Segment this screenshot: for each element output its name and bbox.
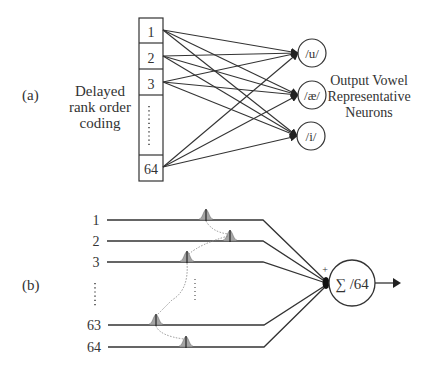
input-column (139, 18, 163, 181)
input-caption-line1: Delayed (75, 83, 125, 99)
line-label-2: 2 (93, 234, 100, 249)
panel-a-label: (a) (22, 87, 39, 104)
connections (163, 30, 298, 167)
neuron-u-label: /u/ (305, 46, 319, 61)
input-cell-2: 2 (148, 51, 155, 66)
line-label-3: 3 (93, 255, 100, 270)
panel-b: (b) 1 2 3 63 64 + (22, 209, 401, 355)
neuron-ae-label: /æ/ (304, 88, 320, 103)
line-label-1: 1 (93, 213, 100, 228)
rank-order-path (156, 221, 228, 339)
input-lines (107, 220, 326, 347)
output-caption-line1: Output Vowel (330, 73, 408, 88)
panel-a: (a) Delayed rank order coding 1 2 3 64 (22, 18, 411, 181)
spike-markers (156, 209, 230, 348)
panel-b-label: (b) (22, 277, 40, 294)
input-caption-line3: coding (80, 115, 121, 131)
plus-sign: + (322, 264, 328, 275)
output-arrow-icon (393, 278, 401, 288)
sum-label: ∑ /64 (335, 276, 369, 293)
input-cell-1: 1 (148, 25, 155, 40)
input-caption-line2: rank order (69, 99, 131, 115)
output-caption-line3: Neurons (345, 105, 392, 120)
neuron-i-label: /i/ (306, 129, 317, 144)
line-label-63: 63 (87, 318, 101, 333)
input-cell-3: 3 (148, 77, 155, 92)
line-label-64: 64 (87, 340, 101, 355)
input-cell-64: 64 (144, 162, 158, 177)
output-caption-line2: Representative (327, 89, 410, 104)
diagram-canvas: (a) Delayed rank order coding 1 2 3 64 (0, 0, 427, 373)
spikes (148, 210, 238, 348)
